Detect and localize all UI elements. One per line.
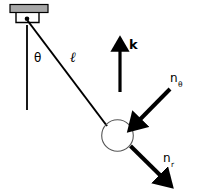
n-r-base: n [163, 151, 171, 165]
n-theta-vector-arrow [138, 89, 171, 122]
pendulum-bob [102, 120, 134, 152]
ceiling-mount [10, 5, 48, 23]
n-r-subscript: r [171, 160, 174, 169]
angle-theta-label: θ [34, 52, 41, 64]
pendulum-diagram: θ ℓ k nθ nr [0, 0, 198, 190]
n-theta-subscript: θ [178, 80, 183, 89]
n-theta-vector-label: nθ [170, 72, 182, 87]
length-ell-label: ℓ [70, 50, 76, 64]
mount-plate-icon [10, 5, 48, 13]
n-r-vector-label: nr [163, 152, 174, 167]
pendulum-string [28, 21, 108, 127]
n-r-vector-arrow [131, 146, 164, 178]
n-theta-base: n [170, 71, 178, 85]
k-vector-label: k [129, 38, 138, 51]
